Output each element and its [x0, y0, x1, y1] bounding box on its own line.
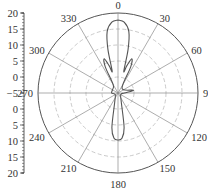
angle-label-30: 30 — [160, 13, 171, 24]
angle-label-90: 90 — [203, 88, 208, 99]
angle-labels: 0306090120150180210240270300330 — [17, 0, 208, 190]
angle-label-270: 270 — [17, 88, 33, 99]
radial-tick-label: 0 — [13, 72, 18, 83]
spoke-120 — [118, 93, 187, 133]
angle-label-240: 240 — [29, 132, 45, 143]
angle-label-150: 150 — [160, 163, 176, 174]
angle-label-210: 210 — [61, 163, 77, 174]
radial-tick-label: 10 — [8, 40, 19, 51]
pattern-trace — [104, 20, 134, 140]
angle-label-180: 180 — [110, 179, 126, 190]
angle-label-300: 300 — [29, 45, 45, 56]
series-trace — [104, 20, 134, 140]
radial-tick-label: 5 — [13, 56, 18, 67]
radial-tick-label: 15 — [8, 24, 19, 35]
radial-tick-label: 10 — [8, 136, 19, 147]
spoke-240 — [49, 93, 118, 133]
polar-chart: 20151050−505101520 030609012015018021024… — [0, 0, 208, 193]
angular-spokes — [38, 13, 198, 173]
angle-label-60: 60 — [191, 45, 202, 56]
radial-tick-label: 20 — [8, 8, 19, 19]
radial-tick-label: 5 — [13, 120, 18, 131]
angle-label-0: 0 — [115, 0, 120, 11]
angle-label-120: 120 — [191, 132, 207, 143]
radial-tick-label: 0 — [13, 104, 18, 115]
radial-tick-label: 20 — [8, 168, 19, 179]
angle-label-330: 330 — [61, 13, 77, 24]
radial-tick-label: 15 — [8, 152, 19, 163]
